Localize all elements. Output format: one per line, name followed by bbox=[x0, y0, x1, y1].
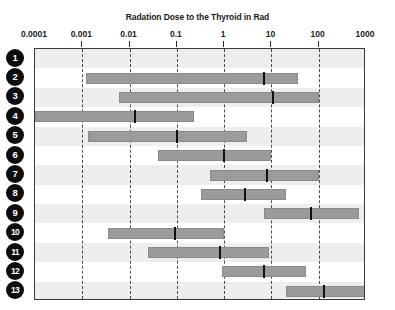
row-number-badge-5: 5 bbox=[6, 126, 24, 144]
range-bar bbox=[35, 111, 194, 122]
x-axis-tick-label: 0.01 bbox=[120, 29, 137, 39]
gridline bbox=[319, 49, 320, 299]
row-number-badge-12: 12 bbox=[6, 262, 24, 280]
range-bar bbox=[119, 92, 319, 103]
range-bar bbox=[148, 247, 269, 258]
row-number-badge-3: 3 bbox=[6, 87, 24, 105]
range-bar bbox=[88, 131, 247, 142]
row-number-badge-8: 8 bbox=[6, 184, 24, 202]
x-axis-tick-mark bbox=[318, 41, 319, 47]
row-number-badge-10: 10 bbox=[6, 223, 24, 241]
x-axis-tick-label: 0.0001 bbox=[21, 29, 47, 39]
median-marker bbox=[272, 91, 274, 104]
row-number-badge-11: 11 bbox=[6, 243, 24, 261]
x-axis-tick-mark bbox=[176, 41, 177, 47]
row-number-badge-4: 4 bbox=[6, 107, 24, 125]
x-axis-tick-mark bbox=[129, 41, 130, 47]
row-number-badge-7: 7 bbox=[6, 165, 24, 183]
x-axis-tick-label: 0.001 bbox=[71, 29, 92, 39]
x-axis-tick-label: 1 bbox=[221, 29, 226, 39]
row-number-badge-1: 1 bbox=[6, 49, 24, 67]
row-number-badge-13: 13 bbox=[6, 281, 24, 299]
range-bar bbox=[158, 150, 271, 161]
median-marker bbox=[223, 149, 225, 162]
x-axis-tick-label: 0.1 bbox=[170, 29, 182, 39]
median-marker bbox=[244, 188, 246, 201]
range-bar bbox=[108, 228, 224, 239]
x-axis-tick-mark bbox=[270, 41, 271, 47]
median-marker bbox=[266, 169, 268, 182]
median-marker bbox=[310, 207, 312, 220]
plot-area bbox=[34, 48, 365, 300]
median-marker bbox=[174, 227, 176, 240]
median-marker bbox=[176, 130, 178, 143]
gridline bbox=[82, 49, 83, 299]
row-band bbox=[35, 262, 364, 281]
x-axis-tick-label: 1000 bbox=[356, 29, 375, 39]
median-marker bbox=[219, 246, 221, 259]
row-number-badge-2: 2 bbox=[6, 68, 24, 86]
row-number-badge-9: 9 bbox=[6, 204, 24, 222]
gridline bbox=[130, 49, 131, 299]
x-axis-tick-label: 10 bbox=[266, 29, 275, 39]
median-marker bbox=[263, 72, 265, 85]
range-bar bbox=[286, 286, 365, 297]
x-axis-tick-mark bbox=[81, 41, 82, 47]
gridline bbox=[177, 49, 178, 299]
range-bar bbox=[86, 73, 298, 84]
row-number-badge-6: 6 bbox=[6, 146, 24, 164]
row-band bbox=[35, 185, 364, 204]
median-marker bbox=[263, 265, 265, 278]
median-marker bbox=[323, 285, 325, 298]
chart-title: Radation Dose to the Thyroid in Rad bbox=[0, 12, 395, 22]
range-bar bbox=[210, 170, 319, 181]
radiation-dose-chart: Radation Dose to the Thyroid in Rad 0.00… bbox=[0, 0, 395, 310]
median-marker bbox=[134, 110, 136, 123]
x-axis-tick-mark bbox=[223, 41, 224, 47]
x-axis-tick-label: 100 bbox=[311, 29, 325, 39]
row-band bbox=[35, 49, 364, 68]
